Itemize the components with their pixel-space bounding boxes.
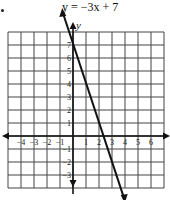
y-tick-label: −2	[62, 158, 71, 167]
x-tick-label: 2	[97, 138, 101, 147]
y-axis-label: y	[75, 19, 81, 31]
coordinate-plane: −4−3−2−11234567654321−1−2−3y.	[0, 0, 170, 200]
line-down-arrow-icon	[121, 194, 128, 200]
line-up-arrow-icon	[59, 8, 66, 17]
grid	[8, 32, 164, 188]
x-tick-label: 4	[123, 138, 127, 147]
x-tick-label: 5	[136, 138, 140, 147]
y-tick-label: −1	[62, 145, 71, 154]
y-tick-label: 1	[67, 119, 71, 128]
x-tick-label: −4	[17, 138, 26, 147]
x-tick-label: 1	[84, 138, 88, 147]
x-tick-label: −2	[43, 138, 52, 147]
x-axis-right-arrow-icon	[163, 133, 170, 140]
x-axis-left-arrow-icon	[2, 133, 9, 140]
y-tick-label: 6	[67, 54, 71, 63]
y-tick-label: 5	[67, 67, 71, 76]
x-tick-label: 6	[149, 138, 153, 147]
tick-labels: −4−3−2−11234567654321−1−2−3y.	[17, 19, 170, 180]
y-axis-down-arrow-icon	[70, 180, 77, 187]
x-tick-label: 3	[110, 138, 114, 147]
x-tick-label: −3	[30, 138, 39, 147]
y-tick-label: 2	[67, 106, 71, 115]
y-tick-label: −3	[62, 171, 71, 180]
y-tick-label: 3	[67, 93, 71, 102]
y-tick-label: 4	[67, 80, 71, 89]
y-tick-label: 7	[67, 41, 71, 50]
